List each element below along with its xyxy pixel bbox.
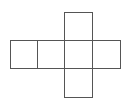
net-square-row-3 (64, 40, 93, 69)
net-square-row-4 (92, 40, 121, 69)
net-square-row-1 (10, 40, 38, 69)
net-square-bottom (64, 68, 93, 98)
net-square-row-2 (37, 40, 65, 69)
net-square-top (64, 12, 93, 41)
